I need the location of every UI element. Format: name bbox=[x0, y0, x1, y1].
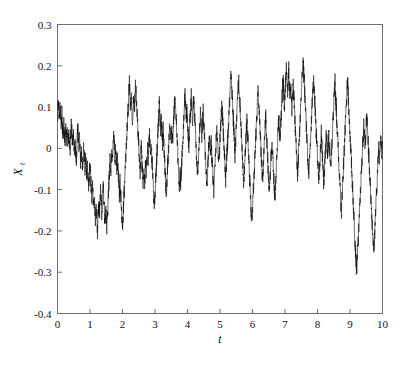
y-tick-label: 0 bbox=[46, 142, 52, 154]
y-tick-label: -0.1 bbox=[34, 184, 51, 196]
x-tick-label: 10 bbox=[377, 318, 389, 330]
x-tick-label: 5 bbox=[217, 318, 223, 330]
x-tick-label: 8 bbox=[315, 318, 321, 330]
y-tick-label: -0.3 bbox=[34, 266, 52, 278]
x-tick-label: 6 bbox=[250, 318, 256, 330]
y-tick-label: -0.4 bbox=[34, 308, 52, 320]
x-tick-label: 3 bbox=[152, 318, 158, 330]
x-tick-label: 4 bbox=[185, 318, 191, 330]
y-tick-label: 0.2 bbox=[38, 60, 52, 72]
x-tick-label: 9 bbox=[347, 318, 353, 330]
x-tick-label: 1 bbox=[87, 318, 93, 330]
y-axis-title: X bbox=[11, 168, 25, 177]
x-tick-label: 0 bbox=[55, 318, 61, 330]
time-series-chart: -0.4-0.3-0.2-0.100.10.20.3 012345678910 … bbox=[0, 0, 402, 367]
y-tick-label: 0.1 bbox=[38, 101, 52, 113]
y-tick-label: -0.2 bbox=[34, 225, 51, 237]
y-tick-label: 0.3 bbox=[38, 19, 52, 31]
x-tick-label: 2 bbox=[120, 318, 126, 330]
chart-background bbox=[0, 0, 402, 367]
x-tick-label: 7 bbox=[282, 318, 288, 330]
figure-container: -0.4-0.3-0.2-0.100.10.20.3 012345678910 … bbox=[0, 0, 402, 367]
